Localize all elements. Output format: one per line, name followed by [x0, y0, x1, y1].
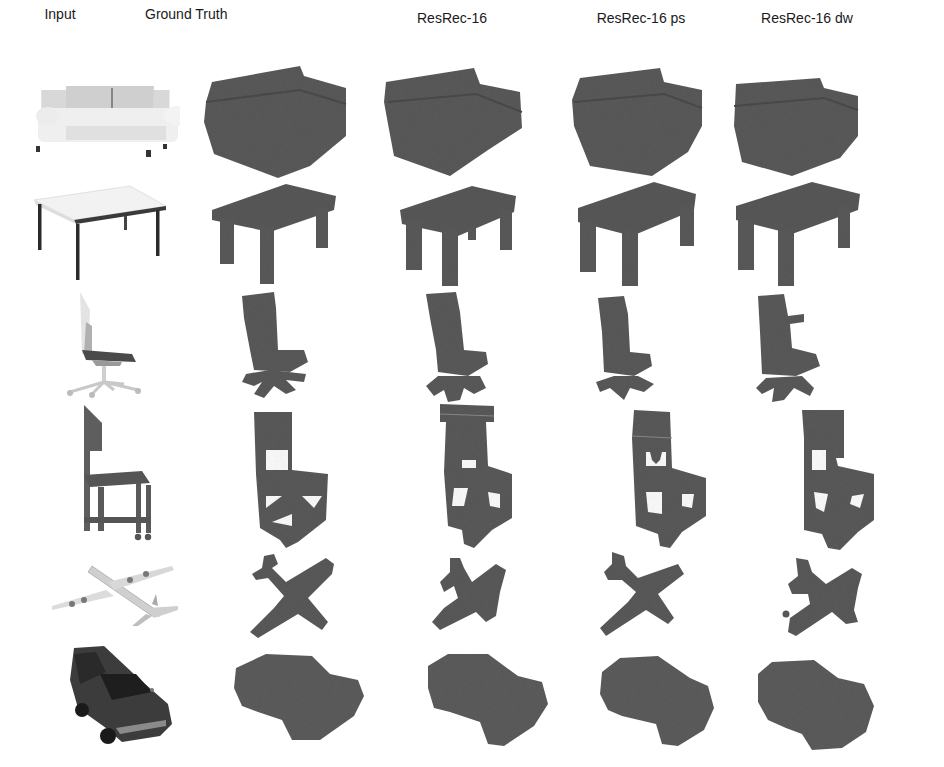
resrec16-ps-wooden-chair-voxel [630, 408, 712, 548]
column-header-input: Input [44, 6, 75, 22]
resrec16-car-voxel [424, 648, 564, 752]
resrec16-ps-office-chair-voxel [594, 292, 662, 402]
resrec16-table-voxel [398, 180, 528, 286]
ground-truth-wooden-chair-voxel [252, 410, 330, 548]
column-header-resrec16-dw: ResRec-16 dw [761, 10, 853, 26]
resrec16-sofa-voxel [380, 62, 530, 180]
resrec16-ps-car-voxel [598, 650, 738, 754]
column-header-ground-truth: Ground Truth [145, 6, 228, 22]
input-office-chair-image [62, 286, 146, 398]
resrec16-dw-office-chair-voxel [754, 292, 832, 404]
input-table-image [30, 180, 170, 280]
resrec16-office-chair-voxel [424, 290, 500, 404]
resrec16-ps-sofa-voxel [568, 62, 716, 180]
resrec16-airplane-voxel [430, 552, 522, 640]
column-header-resrec16: ResRec-16 [417, 10, 487, 26]
input-wooden-chair-image [80, 405, 160, 541]
ground-truth-office-chair-voxel [240, 290, 312, 400]
resrec16-ps-table-voxel [570, 180, 704, 286]
resrec16-dw-wooden-chair-voxel [800, 408, 880, 550]
resrec16-dw-table-voxel [732, 180, 866, 286]
ground-truth-table-voxel [210, 182, 340, 286]
resrec16-dw-airplane-voxel [780, 552, 876, 642]
ground-truth-sofa-voxel [200, 62, 352, 180]
resrec16-ps-airplane-voxel [598, 550, 694, 640]
input-sofa-image [28, 78, 180, 162]
ground-truth-airplane-voxel [248, 550, 348, 640]
ground-truth-car-voxel [230, 650, 372, 746]
resrec16-wooden-chair-voxel [436, 402, 518, 548]
input-car-image [66, 644, 178, 748]
column-header-resrec16-ps: ResRec-16 ps [597, 10, 686, 26]
resrec16-dw-sofa-voxel [728, 66, 868, 178]
input-airplane-image [48, 560, 182, 626]
resrec16-dw-car-voxel [752, 654, 892, 756]
